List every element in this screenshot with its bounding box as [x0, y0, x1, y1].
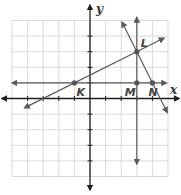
point-label-l: L	[141, 37, 148, 50]
point-k	[72, 80, 77, 85]
point-m	[134, 80, 139, 85]
coordinate-diagram: KLMNxy	[0, 0, 181, 195]
point-label-n: N	[148, 86, 157, 99]
point-l	[134, 49, 139, 54]
point-n	[150, 80, 155, 85]
y-axis-label: y	[95, 2, 104, 16]
point-label-k: K	[76, 86, 86, 99]
labels: KLMNxy	[76, 2, 178, 99]
x-axis-label: x	[169, 83, 178, 97]
point-label-m: M	[125, 86, 136, 99]
